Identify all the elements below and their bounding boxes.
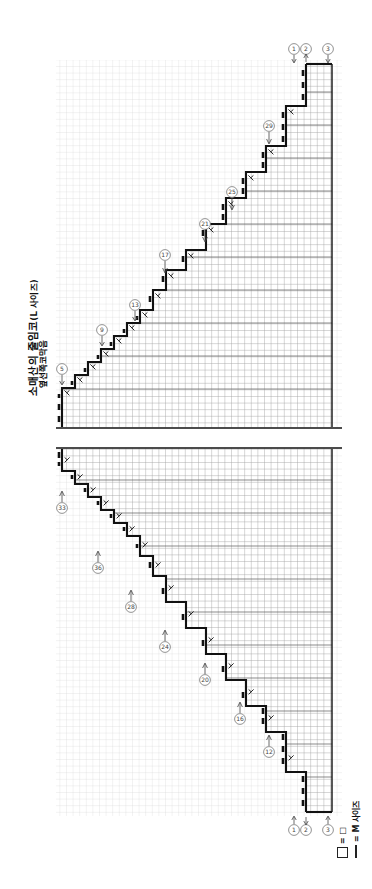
legend-line-label: = M 사이즈 bbox=[350, 801, 361, 842]
bottom-mark-2: 2 bbox=[304, 826, 308, 833]
row-mark-21: 21 bbox=[201, 220, 209, 227]
row-mark-9: 9 bbox=[100, 326, 104, 333]
top-mark-2: 2 bbox=[304, 45, 308, 52]
row-mark-28: 28 bbox=[127, 603, 135, 610]
markers-bottom-edge: 1 2 3 bbox=[289, 816, 334, 835]
bottom-mark-3: 3 bbox=[326, 826, 330, 833]
knitting-chart-grid: 5 9 13 17 21 25 29 33 36 2 bbox=[0, 0, 372, 889]
legend-item-line: = M 사이즈 bbox=[349, 754, 362, 858]
legend-box-label: = □ bbox=[338, 827, 347, 844]
line-symbol-icon bbox=[355, 845, 357, 858]
row-mark-5: 5 bbox=[60, 365, 64, 372]
row-mark-24: 24 bbox=[161, 643, 169, 650]
row-mark-13: 13 bbox=[131, 301, 139, 308]
legend: = □ = M 사이즈 bbox=[336, 754, 362, 858]
row-mark-33: 33 bbox=[58, 504, 66, 511]
row-mark-36: 36 bbox=[94, 564, 102, 571]
chart-canvas: 5 9 13 17 21 25 29 33 36 2 bbox=[0, 0, 372, 889]
top-mark-1: 1 bbox=[292, 45, 296, 52]
row-mark-12: 12 bbox=[265, 748, 273, 755]
top-mark-3: 3 bbox=[326, 45, 330, 52]
row-mark-16: 16 bbox=[236, 715, 244, 722]
row-mark-25: 25 bbox=[228, 188, 236, 195]
row-mark-29: 29 bbox=[265, 122, 273, 129]
bottom-mark-1: 1 bbox=[292, 826, 296, 833]
row-mark-17: 17 bbox=[161, 251, 169, 258]
legend-item-box: = □ bbox=[336, 754, 349, 858]
square-symbol-icon bbox=[337, 847, 348, 858]
row-mark-20: 20 bbox=[201, 676, 209, 683]
